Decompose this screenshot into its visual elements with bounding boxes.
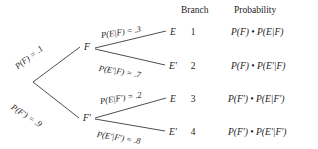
leaf-label: E' — [169, 128, 177, 138]
branch-number: 2 — [186, 62, 200, 72]
probability-expression: P(F') • P(E'|F') — [228, 128, 286, 138]
node-label-f: F — [84, 43, 90, 53]
probability-expression: P(F) • P(E'|F) — [231, 62, 285, 72]
branch-number: 1 — [186, 28, 200, 38]
branch-number: 3 — [186, 95, 200, 105]
probability-tree-diagram: Branch Probability F F' P(F) = .1 P(F') … — [0, 0, 318, 149]
branch-number: 4 — [186, 128, 200, 138]
column-header-probability: Probability — [234, 6, 276, 16]
edge-f-to-e-prime — [95, 49, 165, 65]
edge-root-to-f-prime — [33, 82, 79, 118]
probability-expression: P(F) • P(E|F) — [231, 28, 283, 38]
column-header-branch: Branch — [181, 6, 208, 16]
node-label-f-prime: F' — [83, 114, 91, 124]
edge-f-prime-to-e-prime — [95, 119, 165, 131]
probability-expression: P(F') • P(E|F') — [228, 95, 284, 105]
leaf-label: E — [170, 28, 176, 38]
leaf-label: E' — [169, 62, 177, 72]
leaf-label: E — [170, 95, 176, 105]
